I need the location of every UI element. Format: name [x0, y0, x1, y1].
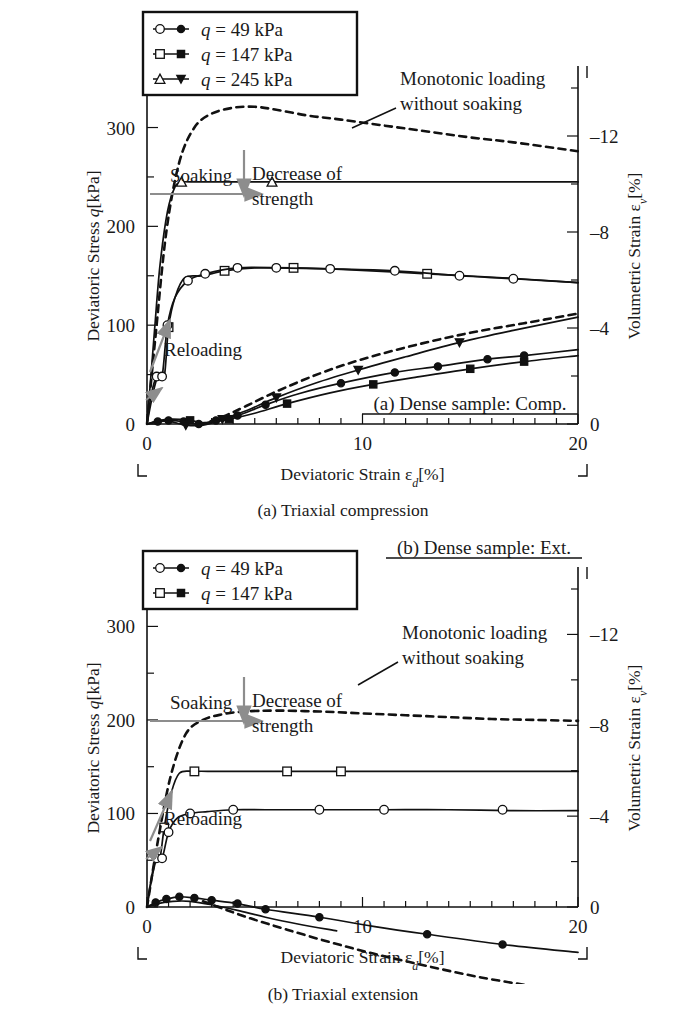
data-point-marker	[337, 767, 346, 776]
legend-label: q = 49 kPa	[201, 19, 284, 40]
data-point-marker	[484, 356, 491, 363]
sample-label: (a) Dense sample: Comp.	[362, 393, 578, 415]
data-point-marker	[337, 380, 344, 387]
data-point-marker	[391, 369, 398, 376]
x-axis-label-unit: [%]	[418, 464, 444, 484]
y2-tick-label: –8	[589, 222, 609, 243]
legend-label: q = 147 kPa	[201, 583, 293, 604]
data-point-marker	[316, 914, 323, 921]
data-point-marker	[156, 50, 165, 59]
data-point-marker	[272, 264, 281, 273]
data-point-marker	[177, 25, 184, 32]
data-point-marker	[391, 267, 400, 276]
y2-axis-label: Volumetric Strain εv[%]	[624, 665, 650, 832]
y-axis-label: Deviatoric Stress q[kPa]	[83, 170, 103, 341]
data-point-marker	[158, 372, 167, 381]
legend-label-symbol: q	[201, 69, 211, 90]
y2-axis-label-symbol: ε	[624, 204, 644, 211]
legend-label-symbol: q	[201, 19, 211, 40]
series-0	[147, 767, 578, 907]
data-point-marker	[201, 269, 210, 278]
data-point-marker	[165, 417, 172, 424]
y-axis-label-main: Deviatoric Stress	[83, 217, 103, 341]
data-point-marker	[380, 805, 389, 814]
panel-triaxial-compression: 0102001002003000–4–8–12Deviatoric Stress…	[0, 0, 686, 521]
y2-axis-label-unit: [%]	[624, 665, 644, 691]
x-axis-label-symbol: ε	[405, 947, 412, 967]
legend-label-rest: = 49 kPa	[211, 558, 284, 579]
data-point-marker	[315, 805, 324, 814]
data-point-marker	[233, 264, 242, 273]
y-axis-label-main: Deviatoric Stress	[83, 709, 103, 833]
plot-area-a: 0102001002003000–4–8–12Deviatoric Stress…	[0, 0, 686, 500]
y2-axis-label-unit: [%]	[624, 173, 644, 199]
chart-svg-a: 0102001002003000–4–8–12Deviatoric Stress…	[0, 0, 686, 500]
y-tick-label: 300	[107, 616, 136, 637]
x-tick-label: 20	[569, 433, 588, 454]
legend: q = 49 kPaq = 147 kPaq = 245 kPa	[143, 12, 357, 95]
x-axis-label-unit: [%]	[418, 947, 444, 967]
data-point-marker	[158, 854, 167, 863]
y2-axis-label-main: Volumetric Strain	[624, 703, 644, 831]
bracket-left	[138, 464, 147, 476]
annotation-decrease-line1: Decrease of	[252, 690, 343, 711]
y-axis-label-symbol: q	[83, 700, 103, 709]
y-axis-label-unit: [kPa]	[83, 170, 103, 208]
data-point-marker	[177, 589, 184, 596]
data-point-marker	[156, 564, 165, 573]
y-tick-label: 100	[107, 803, 136, 824]
bracket-right	[578, 464, 587, 476]
data-point-marker	[283, 400, 290, 407]
annotation-monotonic-leader	[358, 662, 398, 685]
legend-label-symbol: q	[201, 583, 211, 604]
data-point-marker	[184, 276, 193, 285]
data-point-marker	[499, 941, 506, 948]
y2-tick-label: –4	[589, 318, 610, 339]
x-axis-label-main: Deviatoric Strain	[281, 947, 405, 967]
data-point-marker	[283, 767, 292, 776]
series-line	[147, 771, 578, 907]
y2-axis-label-main: Volumetric Strain	[624, 211, 644, 339]
legend-label: q = 49 kPa	[201, 558, 284, 579]
annotation-reloading-text: Reloading	[164, 339, 243, 360]
y2-tick-label: –4	[589, 806, 610, 827]
data-point-marker	[234, 900, 241, 907]
legend-label-symbol: q	[201, 558, 211, 579]
y-tick-label: 200	[107, 216, 136, 237]
x-tick-label: 0	[142, 916, 152, 937]
annotation-reloading-text: Reloading	[164, 808, 243, 829]
panel-b-caption: (b) Triaxial extension	[0, 984, 686, 1005]
annotation-monotonic-line1: Monotonic loading	[400, 68, 546, 89]
annotation-decrease-line2: strength	[252, 715, 314, 736]
y-axis-label: Deviatoric Stress q[kPa]	[83, 662, 103, 833]
data-point-marker	[156, 589, 165, 598]
sample-label-text: (b) Dense sample: Ext.	[397, 537, 571, 559]
data-point-marker	[177, 50, 184, 57]
y2-tick-label: 0	[590, 897, 600, 918]
y2-tick-label: 0	[590, 414, 600, 435]
x-tick-label: 10	[353, 433, 372, 454]
data-point-marker	[164, 828, 173, 837]
x-tick-label: 20	[569, 916, 588, 937]
data-point-marker	[521, 358, 528, 365]
series-line	[203, 901, 578, 984]
annotation-monotonic-line2: without soaking	[400, 93, 522, 114]
x-axis-label-main: Deviatoric Strain	[281, 464, 405, 484]
y-tick-label: 0	[126, 414, 136, 435]
data-point-marker	[498, 805, 507, 814]
annotation-soaking-text: Soaking	[170, 692, 233, 713]
chart-svg-b: 0102001002003000–4–8–12Deviatoric Stress…	[0, 529, 686, 984]
bracket-left	[138, 947, 147, 959]
legend-label-rest: = 245 kPa	[211, 69, 294, 90]
x-axis-label-symbol: ε	[405, 464, 412, 484]
legend: q = 49 kPaq = 147 kPa	[143, 551, 357, 609]
y-axis-label-symbol: q	[83, 208, 103, 217]
series-5	[203, 901, 578, 984]
sample-label: (b) Dense sample: Ext.	[386, 537, 582, 559]
data-point-marker	[370, 381, 377, 388]
data-point-marker	[177, 564, 184, 571]
panel-a-caption: (a) Triaxial compression	[0, 500, 686, 521]
legend-label-rest: = 147 kPa	[211, 44, 294, 65]
legend-label: q = 147 kPa	[201, 44, 293, 65]
annotation-monotonic-line1: Monotonic loading	[402, 622, 548, 643]
